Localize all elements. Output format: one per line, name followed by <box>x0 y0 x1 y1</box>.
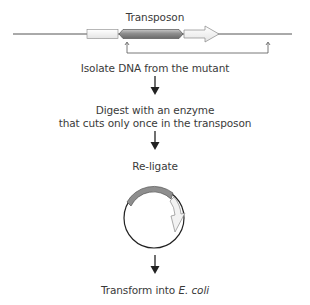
step-transform: Transform into E. coli <box>0 284 310 297</box>
step-digest-line1: Digest with an enzyme <box>0 104 310 117</box>
organism-name: E. coli <box>178 284 209 296</box>
left-box <box>87 30 118 39</box>
gene-arrow <box>184 26 219 42</box>
step-transform-text: Transform into <box>101 284 179 296</box>
step-digest-line2: that cuts only once in the transposon <box>0 117 310 130</box>
flow-arrow-1 <box>151 76 160 95</box>
religated-plasmid <box>124 186 185 248</box>
diagram-canvas <box>0 0 310 305</box>
transposon-bar <box>119 30 183 39</box>
flow-arrow-3 <box>151 255 160 274</box>
plasmid-transposon-arc <box>127 186 173 206</box>
linear-dna-construct <box>13 26 292 42</box>
flow-arrow-2 <box>151 131 160 150</box>
cut-site-bracket <box>125 42 270 53</box>
transposon-label: Transposon <box>0 11 310 24</box>
step-religate: Re-ligate <box>0 160 310 173</box>
step-isolate-dna: Isolate DNA from the mutant <box>0 62 310 75</box>
